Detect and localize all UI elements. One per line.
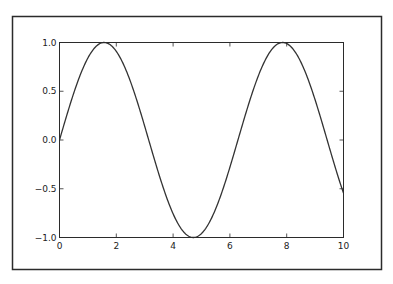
x-tick-label: 4	[170, 241, 176, 251]
series-line	[60, 43, 344, 238]
y-tick-label: 1.0	[42, 38, 57, 48]
y-tick-label: −0.5	[35, 184, 57, 194]
x-tick-label: 2	[113, 241, 119, 251]
x-tick-label: 10	[338, 241, 350, 251]
sine-curve-line	[60, 43, 344, 238]
y-tick-label: −1.0	[35, 233, 57, 243]
x-tick-label: 0	[57, 241, 63, 251]
outer-frame	[13, 17, 382, 270]
x-tick-label: 6	[227, 241, 233, 251]
y-tick-label: 0.5	[42, 86, 56, 96]
axes-box	[60, 43, 344, 238]
x-tick-label: 8	[284, 241, 290, 251]
y-tick-label: 0.0	[42, 135, 57, 145]
chart-figure: 0246810 −1.0−0.50.00.51.0	[0, 0, 393, 284]
chart-svg: 0246810 −1.0−0.50.00.51.0	[0, 0, 393, 284]
y-axis-ticks: −1.0−0.50.00.51.0	[35, 38, 344, 243]
